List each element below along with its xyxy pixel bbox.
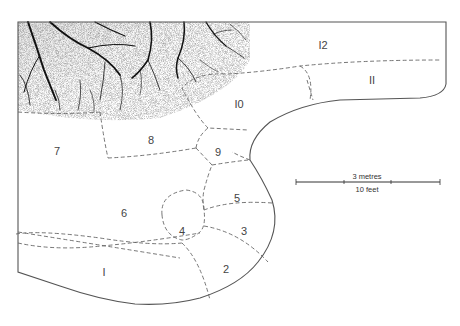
- zone-label-8: 8: [148, 134, 154, 146]
- zone-label-1: I: [102, 266, 105, 278]
- zone-label-9: 9: [215, 146, 221, 158]
- scale-bar: 3 metres 10 feet: [296, 172, 440, 194]
- zone-label-2: 2: [223, 263, 229, 275]
- zone-label-3: 3: [241, 225, 247, 237]
- zone-plan-diagram: I 2 3 4 5 6 7 8 9 I0 II I2 3 metres 10 f…: [0, 0, 460, 326]
- scale-metric-label: 3 metres: [352, 172, 381, 181]
- zone-label-12: I2: [318, 39, 327, 51]
- zone-label-7: 7: [54, 145, 60, 157]
- zone-label-6: 6: [121, 207, 127, 219]
- zone-label-5: 5: [234, 192, 240, 204]
- zone-label-10: I0: [234, 98, 243, 110]
- zone-label-4: 4: [179, 225, 185, 237]
- scale-imperial-label: 10 feet: [356, 185, 380, 194]
- zone-label-11: II: [369, 74, 375, 86]
